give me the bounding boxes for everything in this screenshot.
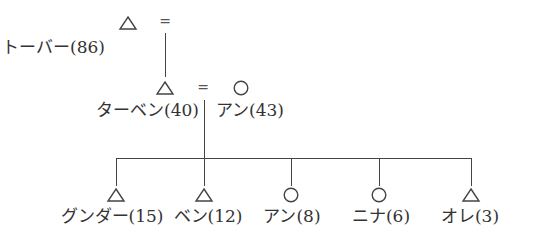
child-label: グンダー(15) (61, 206, 164, 226)
male-triangle-icon (107, 188, 125, 202)
child-drop-line (116, 158, 117, 186)
male-triangle-icon (462, 188, 480, 202)
female-circle-icon (371, 187, 387, 203)
marriage-sign: = (197, 80, 209, 94)
child-label: ベン(12) (174, 206, 243, 226)
marriage-sign: = (159, 14, 171, 28)
child-drop-line (204, 158, 205, 186)
child-label: ニナ(6) (352, 206, 410, 226)
child-label: オレ(3) (441, 206, 499, 226)
male-triangle-icon (195, 188, 213, 202)
person-label-father: ターベン(40) (96, 100, 199, 120)
female-circle-icon (233, 80, 249, 96)
male-triangle-icon (119, 16, 137, 30)
female-circle-icon (283, 187, 299, 203)
sibling-line (116, 158, 471, 159)
child-label: アン(8) (263, 206, 320, 226)
descent-line (204, 100, 205, 158)
person-label-grandfather: トーバー(86) (2, 37, 105, 57)
child-drop-line (471, 158, 472, 186)
male-triangle-icon (156, 81, 174, 95)
descent-line (165, 33, 166, 77)
person-label-mother: アン(43) (216, 100, 284, 120)
child-drop-line (291, 158, 292, 186)
child-drop-line (379, 158, 380, 186)
